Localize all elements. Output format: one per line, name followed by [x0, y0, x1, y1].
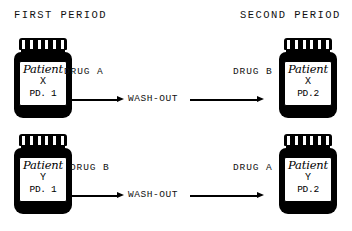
- bottle-label-name: Patient: [288, 64, 328, 76]
- drug-label-row2-right: DRUG A: [233, 162, 273, 173]
- bottle-label: Patient Y PD. 1: [19, 157, 67, 202]
- bottle-label-code: Y: [305, 173, 311, 183]
- bottle-label-name: Patient: [23, 160, 63, 172]
- drug-label-row1-left: DRUG A: [64, 66, 104, 77]
- bottle-label-id: PD. 1: [29, 89, 56, 99]
- washout-label-row2: WASH-OUT: [128, 189, 178, 200]
- bottle-label-id: PD.2: [297, 89, 319, 99]
- bottle-patient-x-period-2: Patient X PD.2: [277, 38, 339, 120]
- bottle-label-id: PD.2: [297, 185, 319, 195]
- bottle-label-id: PD. 1: [29, 185, 56, 195]
- bottle-neck: [21, 49, 65, 54]
- bottle-patient-y-period-1: Patient Y PD. 1: [12, 134, 74, 216]
- bottle-label: Patient X PD.2: [284, 61, 332, 106]
- bottle-patient-y-period-2: Patient Y PD.2: [277, 134, 339, 216]
- bottle-label: Patient Y PD.2: [284, 157, 332, 202]
- bottle-label-name: Patient: [288, 160, 328, 172]
- bottle-cap-ribs: [22, 136, 64, 145]
- bottle-neck: [286, 49, 330, 54]
- drug-label-row1-right: DRUG B: [233, 66, 273, 77]
- crossover-trial-diagram: FIRST PERIOD SECOND PERIOD Patient X PD.…: [0, 0, 352, 231]
- bottle-patient-x-period-1: Patient X PD. 1: [12, 38, 74, 120]
- bottle-label-name: Patient: [23, 64, 63, 76]
- bottle-label-code: X: [40, 77, 46, 87]
- bottle-neck: [286, 145, 330, 150]
- bottle-neck: [21, 145, 65, 150]
- bottle-cap-ribs: [287, 136, 329, 145]
- bottle-label: Patient X PD. 1: [19, 61, 67, 106]
- drug-label-row2-left: DRUG B: [70, 162, 110, 173]
- washout-label-row1: WASH-OUT: [128, 93, 178, 104]
- bottle-cap-ribs: [287, 40, 329, 49]
- bottle-label-code: X: [305, 77, 311, 87]
- first-period-heading: FIRST PERIOD: [14, 9, 107, 21]
- second-period-heading: SECOND PERIOD: [240, 9, 341, 21]
- bottle-cap-ribs: [22, 40, 64, 49]
- bottle-label-code: Y: [40, 173, 46, 183]
